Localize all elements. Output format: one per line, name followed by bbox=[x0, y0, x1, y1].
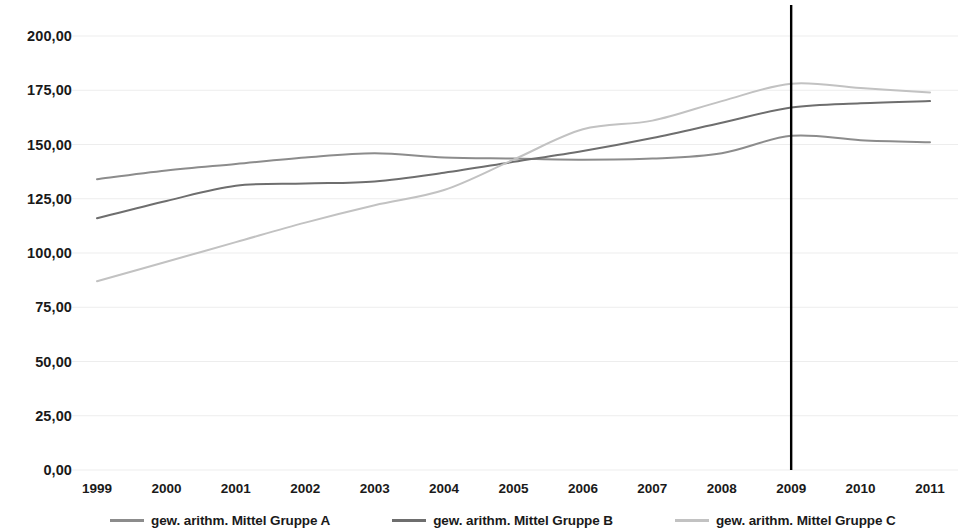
legend-item-label: gew. arithm. Mittel Gruppe C bbox=[716, 513, 896, 528]
x-tick-label: 2010 bbox=[846, 481, 876, 496]
x-tick-label: 2000 bbox=[151, 481, 181, 496]
legend-item[interactable]: gew. arithm. Mittel Gruppe B bbox=[392, 513, 613, 528]
legend-item[interactable]: gew. arithm. Mittel Gruppe C bbox=[675, 513, 896, 528]
x-tick-label: 2003 bbox=[360, 481, 390, 496]
legend-item-label: gew. arithm. Mittel Gruppe A bbox=[151, 513, 330, 528]
x-tick-label: 2004 bbox=[429, 481, 459, 496]
x-tick-label: 2011 bbox=[915, 481, 944, 496]
x-tick-label: 2002 bbox=[290, 481, 320, 496]
x-tick-label: 2006 bbox=[568, 481, 598, 496]
legend-item[interactable]: gew. arithm. Mittel Gruppe A bbox=[110, 513, 330, 528]
line-chart: 0,0025,0050,0075,00100,00125,00150,00175… bbox=[0, 0, 965, 532]
x-tick-label: 2009 bbox=[776, 481, 806, 496]
legend-line-swatch-icon bbox=[675, 519, 709, 522]
x-tick-label: 2001 bbox=[221, 481, 251, 496]
x-axis: 1999200020012002200320042005200620072008… bbox=[0, 0, 965, 532]
legend-item-label: gew. arithm. Mittel Gruppe B bbox=[433, 513, 613, 528]
chart-legend: gew. arithm. Mittel Gruppe Agew. arithm.… bbox=[0, 508, 965, 532]
legend-line-swatch-icon bbox=[110, 519, 144, 522]
x-tick-label: 2007 bbox=[637, 481, 667, 496]
legend-line-swatch-icon bbox=[392, 519, 426, 522]
x-tick-label: 2008 bbox=[707, 481, 737, 496]
x-tick-label: 2005 bbox=[498, 481, 528, 496]
x-tick-label: 1999 bbox=[82, 481, 112, 496]
